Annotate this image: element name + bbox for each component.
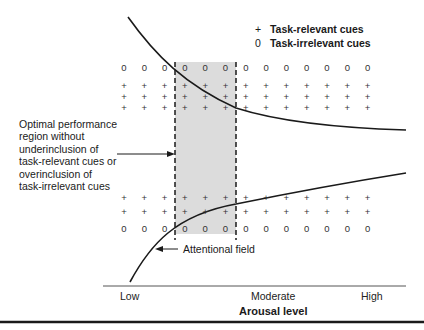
relevant-cue-top: + [261, 81, 271, 91]
relevant-cue-top: + [302, 103, 312, 113]
relevant-cue-top: + [281, 92, 291, 102]
irrelevant-cue-bottom: 0 [241, 224, 251, 234]
relevant-cue-bottom: + [363, 193, 373, 203]
relevant-cue-top: + [180, 103, 190, 113]
relevant-cue-top: + [302, 81, 312, 91]
x-axis-title: Arousal level [239, 305, 307, 317]
relevant-cue-top: + [180, 92, 190, 102]
relevant-cue-bottom: + [221, 207, 231, 217]
relevant-cue-bottom: + [160, 207, 170, 217]
relevant-cue-bottom: + [180, 207, 190, 217]
relevant-cue-bottom: + [119, 193, 129, 203]
relevant-cue-bottom: + [342, 193, 352, 203]
irrelevant-cue-bottom: 0 [139, 224, 149, 234]
irrelevant-cue-top: 0 [180, 63, 190, 73]
irrelevant-cue-top: 0 [241, 63, 251, 73]
relevant-cue-bottom: + [221, 193, 231, 203]
relevant-cue-bottom: + [302, 193, 312, 203]
relevant-cue-bottom: + [261, 193, 271, 203]
plus-symbol-icon: + [255, 23, 267, 35]
relevant-cue-top: + [363, 103, 373, 113]
relevant-cue-top: + [342, 92, 352, 102]
relevant-cue-top: + [342, 81, 352, 91]
relevant-cue-top: + [200, 103, 210, 113]
irrelevant-cue-bottom: 0 [342, 224, 352, 234]
legend-label-irrelevant: Task-irrelevant cues [270, 37, 371, 49]
relevant-cue-bottom: + [200, 193, 210, 203]
relevant-cue-bottom: + [302, 207, 312, 217]
relevant-cue-top: + [200, 92, 210, 102]
irrelevant-cue-bottom: 0 [302, 224, 312, 234]
irrelevant-cue-bottom: 0 [261, 224, 271, 234]
relevant-cue-top: + [139, 92, 149, 102]
relevant-cue-top: + [363, 81, 373, 91]
relevant-cue-top: + [302, 92, 312, 102]
relevant-cue-top: + [160, 92, 170, 102]
relevant-cue-bottom: + [281, 207, 291, 217]
irrelevant-cue-bottom: 0 [221, 224, 231, 234]
irrelevant-cue-top: 0 [281, 63, 291, 73]
relevant-cue-top: + [200, 81, 210, 91]
tick-moderate: Moderate [251, 290, 295, 302]
relevant-cue-top: + [281, 81, 291, 91]
irrelevant-cue-top: 0 [342, 63, 352, 73]
relevant-cue-bottom: + [261, 207, 271, 217]
relevant-cue-bottom: + [200, 207, 210, 217]
attentional-field-label: Attentional field [183, 243, 255, 255]
tick-low: Low [120, 290, 139, 302]
relevant-cue-top: + [261, 92, 271, 102]
irrelevant-cue-bottom: 0 [119, 224, 129, 234]
relevant-cue-top: + [119, 92, 129, 102]
irrelevant-cue-top: 0 [322, 63, 332, 73]
relevant-cue-bottom: + [139, 207, 149, 217]
irrelevant-cue-top: 0 [139, 63, 149, 73]
relevant-cue-top: + [261, 103, 271, 113]
relevant-cue-bottom: + [139, 193, 149, 203]
relevant-cue-top: + [241, 81, 251, 91]
irrelevant-cue-top: 0 [261, 63, 271, 73]
irrelevant-cue-top: 0 [221, 63, 231, 73]
irrelevant-cue-bottom: 0 [363, 224, 373, 234]
relevant-cue-top: + [139, 81, 149, 91]
relevant-cue-bottom: + [363, 207, 373, 217]
relevant-cue-bottom: + [160, 193, 170, 203]
relevant-cue-top: + [221, 92, 231, 102]
relevant-cue-bottom: + [322, 193, 332, 203]
irrelevant-cue-top: 0 [302, 63, 312, 73]
relevant-cue-top: + [363, 92, 373, 102]
irrelevant-cue-top: 0 [160, 63, 170, 73]
attentional-field-arrowhead [155, 246, 163, 252]
relevant-cue-top: + [139, 103, 149, 113]
legend-item-irrelevant: 0 Task-irrelevant cues [255, 37, 371, 49]
relevant-cue-top: + [119, 81, 129, 91]
relevant-cue-bottom: + [241, 207, 251, 217]
zero-symbol-icon: 0 [255, 37, 267, 49]
irrelevant-cue-bottom: 0 [281, 224, 291, 234]
optimal-region-label: Optimal performance region without under… [19, 118, 117, 192]
relevant-cue-bottom: + [322, 207, 332, 217]
irrelevant-cue-bottom: 0 [160, 224, 170, 234]
irrelevant-cue-bottom: 0 [322, 224, 332, 234]
relevant-cue-top: + [322, 81, 332, 91]
irrelevant-cue-top: 0 [363, 63, 373, 73]
relevant-cue-top: + [119, 103, 129, 113]
relevant-cue-top: + [241, 92, 251, 102]
relevant-cue-bottom: + [180, 193, 190, 203]
legend-label-relevant: Task-relevant cues [270, 23, 364, 35]
relevant-cue-top: + [322, 92, 332, 102]
relevant-cue-top: + [322, 103, 332, 113]
relevant-cue-top: + [180, 81, 190, 91]
relevant-cue-top: + [281, 103, 291, 113]
relevant-cue-top: + [160, 103, 170, 113]
irrelevant-cue-top: 0 [200, 63, 210, 73]
legend-item-relevant: + Task-relevant cues [255, 23, 364, 35]
irrelevant-cue-bottom: 0 [180, 224, 190, 234]
relevant-cue-bottom: + [241, 193, 251, 203]
relevant-cue-top: + [160, 81, 170, 91]
relevant-cue-bottom: + [119, 207, 129, 217]
tick-high: High [361, 290, 383, 302]
irrelevant-cue-bottom: 0 [200, 224, 210, 234]
relevant-cue-top: + [342, 103, 352, 113]
relevant-cue-top: + [221, 103, 231, 113]
relevant-cue-bottom: + [281, 193, 291, 203]
